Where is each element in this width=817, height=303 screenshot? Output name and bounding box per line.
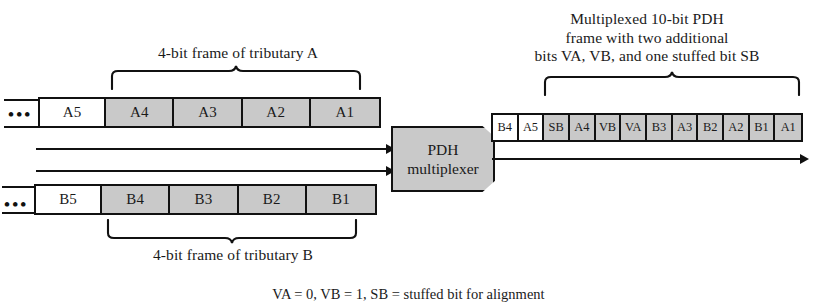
tributary-a-frame: A5A4A3A2A1 [38,97,381,128]
bit-cell-out-b3: B3 [647,115,673,140]
bit-cell-out-a2: A2 [724,115,750,140]
bit-cell-out-vb: VB [596,115,622,140]
bit-cell-out-a1: A1 [775,115,801,140]
bit-cell-out-a5: A5 [519,115,545,140]
bit-cell-a-a3: A3 [174,99,242,126]
tributary-b-frame: B5B4B3B2B1 [34,184,377,215]
output-frame-caption-line1: Multiplexed 10-bit PDH [478,10,816,29]
bit-cell-out-sb: SB [544,115,570,140]
bit-cell-out-b2: B2 [698,115,724,140]
output-frame-caption: Multiplexed 10-bit PDH frame with two ad… [478,10,816,66]
bit-cell-b-b1: B1 [307,186,375,213]
bit-cell-b-b3: B3 [170,186,238,213]
bit-cell-out-b4: B4 [493,115,519,140]
tributary-a-ellipsis: ••• [8,106,32,123]
tributary-b-stream-bottom-tail [2,212,34,214]
bit-cell-out-b1: B1 [750,115,776,140]
bit-cell-a-a2: A2 [243,99,311,126]
tributary-b-brace [106,219,358,245]
tributary-a-input-arrow-line [36,148,388,150]
bit-cell-out-a4: A4 [570,115,596,140]
output-frame-caption-line2: frame with two additional [478,29,816,48]
tributary-a-stream-top-tail [4,99,38,101]
pdh-multiplexer-line1: PDH [427,140,458,159]
tributary-b-ellipsis: ••• [4,196,28,213]
tributary-a-stream-bottom-tail [4,126,38,128]
pdh-multiplexer-line2: multiplexer [407,159,478,178]
bit-cell-a-a5: A5 [40,99,106,126]
multiplexed-output-arrow-head [800,154,809,164]
bit-cell-b-b5: B5 [36,186,102,213]
pdh-multiplexer-block: PDH multiplexer [391,126,495,192]
tributary-b-stream-top-tail [2,186,34,188]
bit-cell-out-va: VA [621,115,647,140]
output-frame-brace [543,70,801,96]
multiplexed-output-frame: B4A5SBA4VBVAB3A3B2A2B1A1 [491,113,803,142]
bit-cell-a-a1: A1 [311,99,379,126]
multiplexed-output-arrow-line [492,158,802,160]
bit-cell-out-a3: A3 [673,115,699,140]
bit-cell-b-b2: B2 [239,186,307,213]
output-frame-caption-line3: bits VA, VB, and one stuffed bit SB [478,47,816,66]
tributary-a-brace-label: 4-bit frame of tributary A [93,44,383,63]
tributary-a-brace [110,64,362,90]
tributary-b-brace-label: 4-bit frame of tributary B [88,246,378,265]
tributary-b-input-arrow-line [36,170,388,172]
bit-cell-b-b4: B4 [102,186,170,213]
footnote: VA = 0, VB = 1, SB = stuffed bit for ali… [0,286,817,303]
bit-cell-a-a4: A4 [106,99,174,126]
